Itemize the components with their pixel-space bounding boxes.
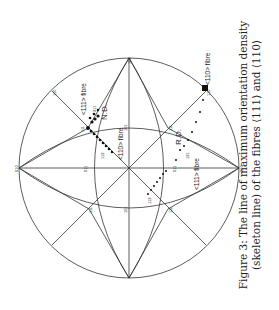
great-circle-arc-10 xyxy=(19,168,89,209)
fibre-110-rim-label: <110> fibre xyxy=(204,52,211,85)
great-circle-arc-12 xyxy=(168,168,239,209)
pole-label: 111 xyxy=(80,125,85,132)
pole-label: 101 xyxy=(123,206,128,213)
pole-label: 100 xyxy=(127,57,132,64)
pole-label: 110 xyxy=(52,89,57,96)
figure-caption: Figure 3: The line of maximum orientatio… xyxy=(237,5,267,305)
figure-number: Figure 3: xyxy=(237,240,249,289)
great-circle-arc-9 xyxy=(19,128,88,168)
pole-label: 111 xyxy=(168,206,173,213)
pole-label: 011 xyxy=(172,165,177,172)
caption-line-1: The line of maximum orientation density xyxy=(237,21,249,237)
nd-label: N.D. xyxy=(100,104,109,120)
pole-label: 111 xyxy=(88,206,93,213)
pole-label: 101 xyxy=(123,124,128,131)
pole-label: 112 xyxy=(147,197,152,204)
pole-label: 011 xyxy=(83,165,88,172)
great-circle-arc-7 xyxy=(89,209,129,278)
pole-label: 211 xyxy=(92,105,97,112)
fibre-110-center-label: <110> fibre xyxy=(117,127,124,160)
rd-label: R.D. xyxy=(174,129,183,145)
fibre-111-lower-label: <111> fibre xyxy=(193,158,200,190)
pole-label: 111 xyxy=(168,124,173,131)
pole-label: 121 xyxy=(185,152,190,159)
pole-label: 110 xyxy=(206,89,211,96)
great-circle-arc-6 xyxy=(129,58,168,128)
pole-label: 010 xyxy=(14,165,19,172)
pole-label: 112 xyxy=(100,152,105,159)
great-circle-arc-8 xyxy=(129,209,168,278)
fibre-111-label: <111> fibre xyxy=(80,83,87,115)
caption-line-2: (skeleton line) of the fibres ⟨111⟩ and … xyxy=(250,5,263,305)
